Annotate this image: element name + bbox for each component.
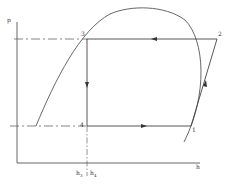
saturation-dome bbox=[36, 8, 201, 142]
compression-line-1-2 bbox=[191, 39, 217, 126]
point-2-label: 2 bbox=[218, 31, 222, 37]
x-axis-label: h bbox=[196, 164, 200, 170]
point-3-label: 3 bbox=[81, 31, 85, 37]
h4-mark-label: h4 bbox=[90, 170, 96, 178]
arrow-down-icon bbox=[85, 82, 89, 88]
h3-mark-label: h3 bbox=[76, 170, 82, 178]
point-4-label: 4 bbox=[80, 122, 84, 128]
arrow-right-icon bbox=[141, 124, 147, 128]
arrow-left-icon bbox=[151, 37, 157, 41]
point-1-label: 1 bbox=[192, 127, 196, 133]
y-axis-label: p bbox=[7, 17, 11, 23]
ph-diagram bbox=[0, 0, 232, 187]
